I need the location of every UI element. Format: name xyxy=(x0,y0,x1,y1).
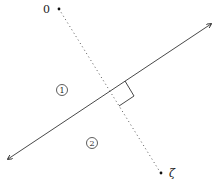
dividing-line xyxy=(8,24,211,159)
point-origin-dot xyxy=(58,8,61,11)
diagram-canvas: 0 ζ 1 2 xyxy=(0,0,213,181)
perpendicular-dotted-line xyxy=(59,9,160,172)
right-angle-marker xyxy=(119,81,134,106)
region-2-label: 2 xyxy=(89,139,94,148)
region-1-label: 1 xyxy=(59,86,64,95)
point-zeta-label: ζ xyxy=(169,167,176,180)
point-zeta-dot xyxy=(160,172,163,175)
point-origin-label: 0 xyxy=(43,3,50,16)
